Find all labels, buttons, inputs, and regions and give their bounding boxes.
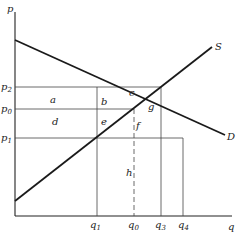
region-label-d: d — [52, 116, 58, 127]
demand-label: D — [226, 131, 235, 142]
y-axis-label: p — [7, 3, 14, 14]
demand-curve — [15, 40, 225, 135]
price-label-p2: p2 — [1, 81, 12, 94]
supply-label: S — [215, 41, 222, 52]
region-label-e: e — [101, 116, 107, 127]
quantity-label-q0: q0 — [128, 219, 139, 232]
quantity-label-q1: q1 — [90, 219, 101, 232]
region-label-a: a — [50, 94, 56, 105]
region-label-h: h — [126, 167, 132, 178]
quantity-label-q3: q3 — [155, 219, 166, 232]
supply-curve — [15, 47, 212, 201]
quantity-label-q4: q4 — [178, 219, 189, 232]
region-label-c: c — [129, 87, 135, 98]
price-label-p1: p1 — [1, 132, 12, 145]
price-label-p0: p0 — [1, 103, 12, 116]
region-label-f: f — [135, 120, 142, 131]
x-axis-label: q — [228, 221, 234, 232]
supply-demand-diagram: p q S D p2 p0 p1 q1 q0 q3 q4 a b c d e f… — [0, 0, 237, 232]
region-label-g: g — [148, 101, 154, 112]
region-label-b: b — [101, 96, 107, 107]
